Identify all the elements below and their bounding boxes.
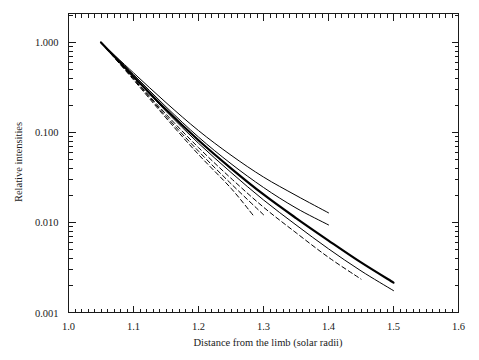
y-tick-label: 1.000 <box>35 37 59 48</box>
data-curves <box>101 43 394 291</box>
chart-page: 1.01.11.21.31.41.51.6 1.0000.1000.0100.0… <box>0 0 479 360</box>
curve-solid-upper <box>101 43 329 213</box>
axis-ticks <box>69 14 459 313</box>
x-axis-tick-labels: 1.01.11.21.31.41.51.6 <box>62 321 465 332</box>
x-axis-title: Distance from the limb (solar radii) <box>194 337 343 349</box>
x-tick-label: 1.5 <box>387 321 400 332</box>
y-tick-label: 0.100 <box>35 127 59 138</box>
x-tick-label: 1.4 <box>322 321 336 332</box>
curve-solid-thick-middle <box>101 43 394 283</box>
x-tick-label: 1.6 <box>452 321 465 332</box>
y-tick-label: 0.010 <box>35 217 59 228</box>
y-axis-tick-labels: 1.0000.1000.0100.001 <box>35 37 59 318</box>
x-tick-label: 1.0 <box>62 321 75 332</box>
x-tick-label: 1.2 <box>192 321 205 332</box>
y-tick-label: 0.001 <box>35 308 59 319</box>
plot-border <box>69 14 459 313</box>
curve-solid-short <box>101 43 329 225</box>
relative-intensities-plot: 1.01.11.21.31.41.51.6 1.0000.1000.0100.0… <box>0 0 479 360</box>
x-tick-label: 1.3 <box>257 321 270 332</box>
plot-frame <box>69 14 459 313</box>
x-tick-label: 1.1 <box>127 321 140 332</box>
y-axis-title: Relative intensities <box>13 122 24 202</box>
